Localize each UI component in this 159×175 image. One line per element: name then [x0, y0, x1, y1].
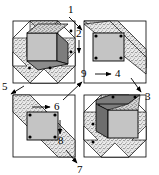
- corner-dot: [53, 113, 56, 116]
- arrow-5: [11, 86, 24, 94]
- label-7: 7: [77, 164, 83, 175]
- label-3: 3: [145, 91, 151, 102]
- top-left-block: [13, 21, 75, 83]
- corner-dot: [112, 96, 115, 99]
- label-6: 6: [54, 101, 60, 112]
- label-2: 2: [76, 28, 82, 39]
- label-4: 4: [115, 68, 121, 79]
- corner-dot: [119, 56, 122, 59]
- corner-dot: [28, 113, 31, 116]
- corner-dot: [28, 67, 31, 70]
- bottom-right-block: [84, 95, 146, 157]
- label-8: 8: [58, 135, 64, 146]
- corner-dot: [92, 141, 95, 144]
- corner-dot: [119, 34, 122, 37]
- label-9: 9: [81, 68, 87, 79]
- bottom-left-block: [13, 95, 75, 157]
- corner-dot: [49, 67, 52, 70]
- corner-dot: [70, 30, 73, 33]
- corner-dot: [92, 123, 95, 126]
- corner-dot: [70, 51, 73, 54]
- corner-dot: [53, 135, 56, 138]
- label-5: 5: [2, 81, 8, 92]
- corner-dot: [94, 56, 97, 59]
- label-1: 1: [68, 4, 74, 15]
- corner-dot: [134, 96, 137, 99]
- corner-dot: [28, 135, 31, 138]
- corner-dot: [94, 34, 97, 37]
